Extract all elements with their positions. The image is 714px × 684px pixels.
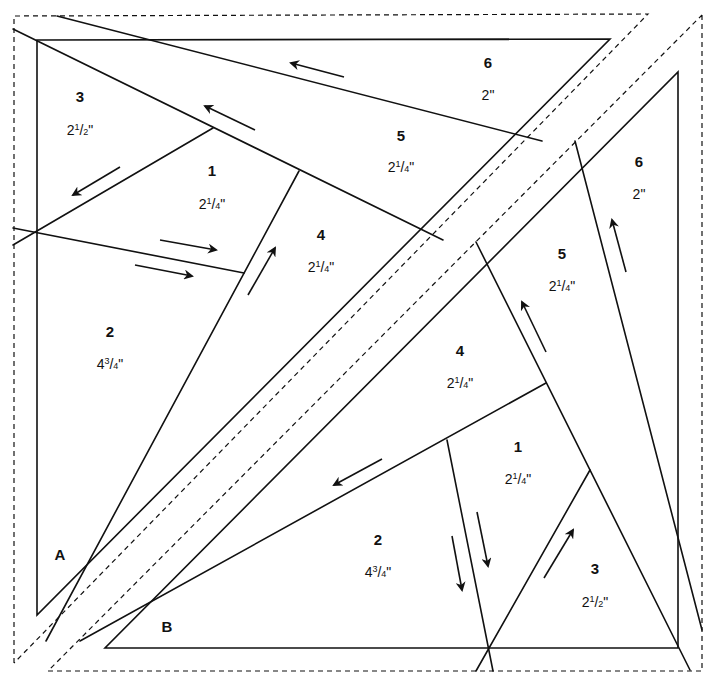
piece-label: 2: [106, 323, 114, 340]
piece-size: 43/4": [365, 564, 392, 580]
section-b-seam-2-4: [80, 383, 546, 641]
quilt-block-diagram: 3 21/2" 1 21/4" 4 21/4" 5 21/4" 6 2" 2 4…: [0, 0, 714, 684]
arrow-icon: [291, 63, 344, 77]
arrow-icon: [334, 459, 382, 485]
arrow-icon: [452, 536, 462, 590]
piece-label: 1: [514, 438, 522, 455]
section-b-seam-1-3: [476, 470, 590, 671]
arrow-icon: [477, 512, 488, 566]
piece-label: 3: [591, 560, 599, 577]
arrow-icon: [522, 302, 546, 352]
piece-size: 21/4": [308, 259, 335, 275]
piece-size: 21/4": [505, 471, 532, 487]
piece-size: 43/4": [97, 356, 124, 372]
section-a-seam-1-2: [13, 228, 244, 273]
arrow-icon: [248, 248, 275, 295]
piece-label: 1: [208, 162, 216, 179]
arrow-icon: [612, 220, 626, 272]
section-a: 3 21/2" 1 21/4" 4 21/4" 5 21/4" 6 2" 2 4…: [13, 16, 610, 641]
section-label-b: B: [162, 618, 173, 635]
arrow-icon: [544, 530, 573, 578]
piece-label: 4: [456, 342, 465, 359]
piece-label: 6: [484, 54, 492, 71]
piece-size: 21/4": [549, 278, 576, 294]
piece-label: 2: [374, 531, 382, 548]
piece-label: 5: [558, 245, 566, 262]
piece-size: 21/4": [199, 196, 226, 212]
piece-label: 4: [317, 226, 326, 243]
piece-label: 3: [76, 88, 84, 105]
piece-label: 5: [397, 127, 405, 144]
piece-size: 2": [633, 186, 646, 202]
piece-size: 2": [482, 87, 495, 103]
arrow-icon: [135, 265, 192, 276]
piece-size: 21/4": [447, 375, 474, 391]
piece-size: 21/2": [582, 594, 609, 610]
piece-label: 6: [635, 153, 643, 170]
section-label-a: A: [55, 546, 66, 563]
piece-size: 21/2": [67, 122, 94, 138]
section-b-seam-5-6: [575, 141, 702, 630]
section-a-seam-5-6: [57, 16, 542, 141]
arrow-icon: [160, 240, 216, 250]
section-a-outline: [37, 39, 610, 615]
arrow-icon: [73, 167, 120, 195]
section-a-seam-1-3: [13, 128, 213, 245]
piece-size: 21/4": [388, 159, 415, 175]
